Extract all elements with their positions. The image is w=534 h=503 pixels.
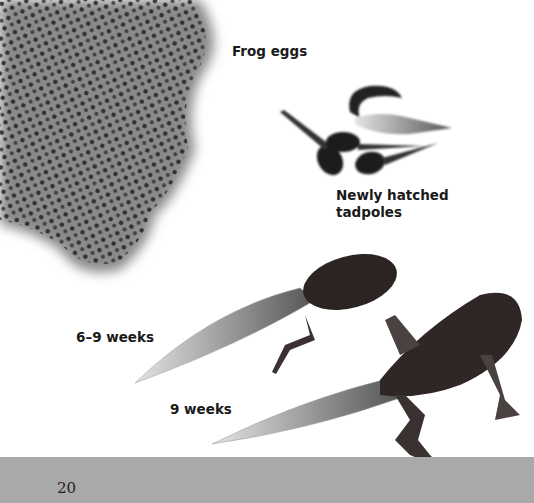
frog-eggs-image [0,0,214,273]
page-number: 20 [57,479,76,497]
label-9-weeks: 9 weeks [170,401,232,418]
label-tadpoles: tadpoles [336,204,402,221]
illustration [0,0,534,503]
tadpole-6-9-weeks-image [135,244,403,383]
page-footer-band: 20 [0,457,534,503]
label-newly-hatched: Newly hatched [336,187,449,204]
label-6-9-weeks: 6–9 weeks [76,329,154,346]
hatched-tadpoles-image [280,86,452,180]
label-frog-eggs: Frog eggs [232,43,307,60]
